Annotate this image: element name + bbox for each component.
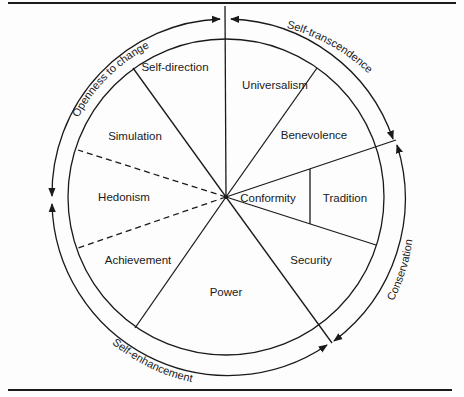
label-benevolence: Benevolence — [281, 129, 348, 141]
label-conservation: Conservation — [384, 238, 414, 302]
label-self-transcendence: Self-transcendence — [286, 18, 375, 75]
spoke-top — [225, 6, 226, 197]
label-tradition: Tradition — [323, 192, 367, 204]
label-power: Power — [210, 286, 243, 298]
spoke-security-tradition — [226, 197, 376, 245]
center-point — [224, 195, 228, 199]
label-self-enhancement: Self-enhancement — [111, 336, 194, 384]
spoke-hedonism-achievement — [78, 197, 226, 248]
spoke-simulation-hedonism — [78, 150, 226, 197]
label-universalism: Universalism — [242, 79, 308, 91]
label-conformity: Conformity — [240, 192, 296, 204]
label-openness-to-change: Openness to change — [70, 39, 151, 119]
spoke-benevolence-conformity — [226, 140, 396, 197]
label-security: Security — [290, 254, 332, 266]
values-circumplex-diagram: Self-direction Universalism Benevolence … — [0, 0, 464, 397]
label-hedonism: Hedonism — [98, 191, 150, 203]
spoke-power-security — [226, 197, 332, 343]
label-self-direction: Self-direction — [141, 61, 208, 73]
label-simulation: Simulation — [108, 130, 162, 142]
label-achievement: Achievement — [105, 254, 172, 266]
self-enhancement-arc — [52, 204, 327, 376]
